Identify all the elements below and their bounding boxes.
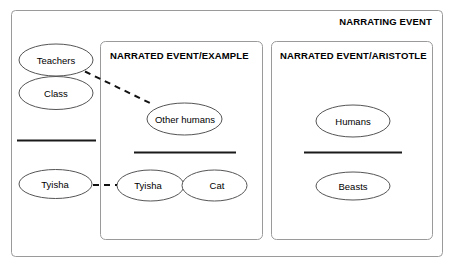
node-label-beasts: Beasts [338,181,367,192]
node-label-other-humans: Other humans [155,114,215,125]
inner-frame-narrated-event-example [101,42,263,240]
diagram-canvas: NARRATING EVENT NARRATED EVENT/EXAMPLE N… [0,0,452,267]
node-label-narrating-tyisha: Tyisha [41,179,68,190]
node-label-teachers: Teachers [37,55,76,66]
node-label-example-tyisha: Tyisha [134,180,161,191]
node-label-humans: Humans [335,116,370,127]
outer-frame-label: NARRATING EVENT [339,16,432,27]
diagram-vector-layer [0,0,452,267]
inner-frame-label-example: NARRATED EVENT/EXAMPLE [110,50,249,61]
node-label-example-cat: Cat [210,180,225,191]
inner-frame-label-aristotle: NARRATED EVENT/ARISTOTLE [280,50,427,61]
node-label-class: Class [44,88,68,99]
inner-frame-narrated-event-aristotle [272,42,433,240]
